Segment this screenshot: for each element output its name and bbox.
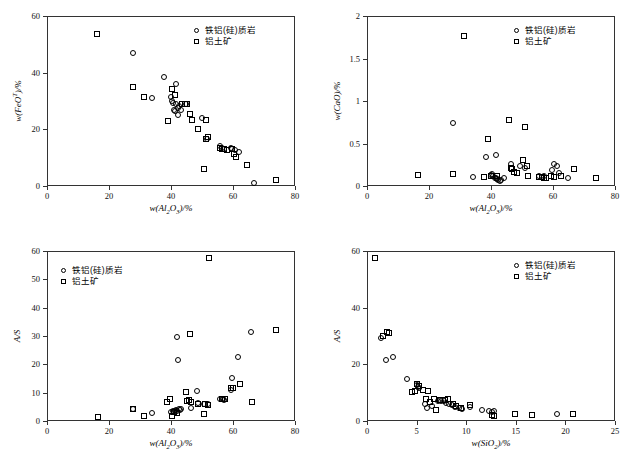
- data-point-square: [372, 255, 378, 261]
- x-axis-tick-label: 20: [561, 426, 570, 436]
- data-point-circle: [390, 354, 396, 360]
- scatter-panel-bottom-right: 05101520250204060w(SiO2)/%A/S铁铝(硅)质岩铝土矿: [0, 0, 635, 470]
- x-axis-tick: [367, 421, 368, 425]
- data-point-circle: [479, 407, 485, 413]
- square-marker-icon: [510, 274, 522, 279]
- data-point-square: [529, 412, 535, 418]
- data-point-circle: [383, 357, 389, 363]
- x-axis-tick-label: 25: [611, 426, 620, 436]
- x-axis-tick: [417, 421, 418, 425]
- y-axis-title: A/S: [332, 330, 342, 343]
- data-point-square: [425, 388, 431, 394]
- data-point-square: [458, 405, 464, 411]
- x-axis-tick: [516, 421, 517, 425]
- x-axis-tick: [615, 421, 616, 425]
- x-axis-tick-label: 0: [365, 426, 369, 436]
- y-axis-tick-label: 40: [352, 303, 361, 313]
- plot-frame: [367, 251, 615, 421]
- y-axis-tick: [363, 364, 367, 365]
- legend: 铁铝(硅)质岩铝土矿: [510, 260, 576, 282]
- data-point-circle: [554, 411, 560, 417]
- legend-item: 铁铝(硅)质岩: [510, 260, 576, 271]
- figure-container: 0204060800204060w(Al2O3)/%w(FeOT)/%铁铝(硅)…: [0, 0, 635, 470]
- y-axis-tick: [363, 308, 367, 309]
- x-axis-tick: [466, 421, 467, 425]
- x-axis-tick-label: 10: [462, 426, 471, 436]
- x-axis-tick-label: 15: [512, 426, 521, 436]
- y-axis-tick-label: 60: [352, 246, 361, 256]
- legend-marker-shape: [514, 274, 519, 279]
- legend-marker-shape: [514, 263, 519, 268]
- legend-item-label: 铁铝(硅)质岩: [522, 260, 576, 271]
- data-point-square: [491, 413, 497, 419]
- x-axis-title: w(SiO2)/%: [472, 438, 511, 450]
- legend-item-label: 铝土矿: [522, 271, 552, 282]
- data-point-circle: [404, 376, 410, 382]
- y-axis-tick-label: 20: [352, 359, 361, 369]
- x-axis-tick: [565, 421, 566, 425]
- data-point-square: [433, 407, 439, 413]
- y-axis-tick: [363, 421, 367, 422]
- data-point-square: [467, 402, 473, 408]
- y-axis-tick: [363, 251, 367, 252]
- x-axis-tick-label: 5: [414, 426, 418, 436]
- data-point-square: [570, 411, 576, 417]
- legend-item: 铝土矿: [510, 271, 576, 282]
- data-point-square: [386, 330, 392, 336]
- circle-marker-icon: [510, 263, 522, 268]
- data-point-square: [512, 411, 518, 417]
- y-axis-tick-label: 0: [356, 416, 360, 426]
